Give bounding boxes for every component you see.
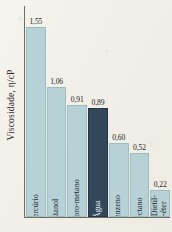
bar-value-label: 0,89	[92, 98, 105, 107]
y-axis-title-text: Viscosidade, η/cP	[6, 69, 16, 140]
category-label: Mercúrio	[32, 194, 41, 217]
x-axis-line	[24, 217, 170, 218]
y-axis-title: Viscosidade, η/cP	[2, 0, 20, 210]
bar: Etanol	[47, 87, 67, 217]
bar-highlight: Água	[88, 108, 108, 217]
bar: Tetracloro-metano	[67, 105, 87, 217]
category-label: Benzeno	[114, 195, 123, 217]
bar-value-label: 0,60	[112, 133, 125, 142]
bar-value-label: 0,52	[133, 143, 146, 152]
bar-value-label: 1,06	[50, 77, 63, 86]
bar-column: 0,52Octano	[130, 6, 150, 217]
bar: Octano	[130, 153, 150, 217]
category-label-wrap: Mercúrio	[27, 150, 45, 214]
category-label-wrap: Água	[89, 150, 107, 214]
category-label-wrap: Etanol	[48, 150, 66, 214]
bar-value-label: 0,91	[71, 95, 84, 104]
bar-chart-figure: Viscosidade, η/cP 1,55Mercúrio1,06Etanol…	[0, 0, 172, 232]
category-label: Tetracloro-metano	[73, 180, 82, 217]
category-label: Etanol	[52, 199, 61, 217]
category-label: Água	[94, 201, 103, 217]
plot-area: 1,55Mercúrio1,06Etanol0,91Tetracloro-met…	[24, 6, 170, 218]
category-label-wrap: Dietil- -éter	[151, 190, 169, 214]
category-label: Octano	[135, 198, 144, 217]
bar-value-label: 1,55	[29, 17, 42, 26]
bar-column: 1,55Mercúrio	[26, 6, 46, 217]
bar: Mercúrio	[26, 27, 46, 217]
bar-value-label: 0,22	[154, 180, 167, 189]
bar-group: 1,55Mercúrio1,06Etanol0,91Tetracloro-met…	[26, 6, 170, 217]
category-label: Dietil- -éter	[152, 195, 169, 216]
bar: Benzeno	[109, 143, 129, 217]
bar-column: 0,60Benzeno	[109, 6, 129, 217]
bar-column: 0,89Água	[88, 6, 108, 217]
bar-column: 0,22Dietil- -éter	[150, 6, 170, 217]
category-label-wrap: Benzeno	[110, 150, 128, 214]
category-label-wrap: Octano	[131, 153, 149, 214]
bar: Dietil- -éter	[150, 190, 170, 217]
bar-column: 0,91Tetracloro-metano	[67, 6, 87, 217]
y-axis-line	[24, 6, 25, 218]
category-label-wrap: Tetracloro-metano	[68, 150, 86, 214]
bar-column: 1,06Etanol	[47, 6, 67, 217]
